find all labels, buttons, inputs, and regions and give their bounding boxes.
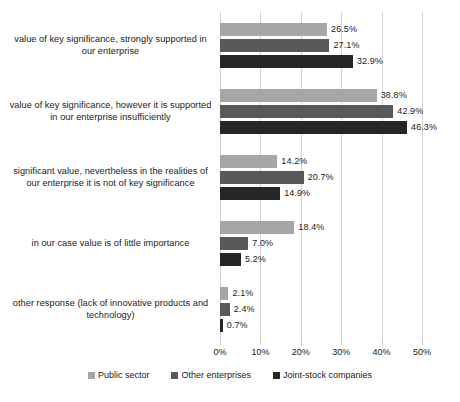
legend-label: Joint-stock companies <box>283 370 372 380</box>
plot-area: 26.5%27.1%32.9%38.8%42.9%46.3%14.2%20.7%… <box>220 12 422 342</box>
bar-joint-stock-companies <box>220 253 241 266</box>
bar-row: 20.7% <box>220 171 334 184</box>
bar-row: 26.5% <box>220 23 357 36</box>
bar-value-label: 42.9% <box>393 105 423 118</box>
bar-value-label: 38.8% <box>377 89 407 102</box>
bar-row: 46.3% <box>220 121 437 134</box>
x-tick-mark <box>341 342 342 345</box>
x-tick-label: 20% <box>292 347 310 357</box>
bar-value-label: 26.5% <box>327 23 357 36</box>
legend-label: Other enterprises <box>181 370 251 380</box>
x-tick-mark <box>220 342 221 345</box>
bar-row: 18.4% <box>220 221 324 234</box>
bar-row: 14.9% <box>220 187 310 200</box>
bar-value-label: 2.1% <box>228 287 253 300</box>
legend-label: Public sector <box>98 370 150 380</box>
bar-row: 5.2% <box>220 253 266 266</box>
x-tick-label: 0% <box>213 347 226 357</box>
gridline-50% <box>422 12 423 342</box>
bar-value-label: 0.7% <box>223 319 248 332</box>
bar-other-enterprises <box>220 171 304 184</box>
legend-swatch-icon <box>88 372 95 379</box>
category-label: value of key significance, however it is… <box>8 99 213 124</box>
bar-row: 2.1% <box>220 287 253 300</box>
bar-row: 7.0% <box>220 237 273 250</box>
x-tick-mark <box>382 342 383 345</box>
legend-item-other-enterprises[interactable]: Other enterprises <box>171 370 251 380</box>
bar-value-label: 7.0% <box>248 237 273 250</box>
bar-public-sector <box>220 287 228 300</box>
bar-value-label: 14.2% <box>277 155 307 168</box>
bar-group: 14.2%20.7%14.9% <box>220 144 422 210</box>
bar-value-label: 32.9% <box>353 55 383 68</box>
bar-joint-stock-companies <box>220 121 407 134</box>
bar-row: 2.4% <box>220 303 255 316</box>
bar-row: 27.1% <box>220 39 360 52</box>
x-tick-mark <box>301 342 302 345</box>
bar-row: 38.8% <box>220 89 407 102</box>
category-label: value of key significance, strongly supp… <box>8 33 213 58</box>
bar-value-label: 27.1% <box>329 39 359 52</box>
bar-value-label: 46.3% <box>407 121 437 134</box>
bar-public-sector <box>220 89 377 102</box>
bar-value-label: 20.7% <box>304 171 334 184</box>
bar-value-label: 18.4% <box>294 221 324 234</box>
bar-public-sector <box>220 155 277 168</box>
bar-row: 14.2% <box>220 155 307 168</box>
x-tick-label: 10% <box>251 347 269 357</box>
bar-chart: 26.5%27.1%32.9%38.8%42.9%46.3%14.2%20.7%… <box>0 0 460 402</box>
category-label: other response (lack of innovative produ… <box>8 297 213 322</box>
bar-other-enterprises <box>220 237 248 250</box>
bar-public-sector <box>220 23 327 36</box>
bar-row: 42.9% <box>220 105 423 118</box>
category-label: in our case value is of little importanc… <box>8 237 213 250</box>
x-tick-label: 30% <box>332 347 350 357</box>
chart-legend: Public sectorOther enterprisesJoint-stoc… <box>0 370 460 380</box>
bar-row: 32.9% <box>220 55 383 68</box>
x-tick-mark <box>260 342 261 345</box>
bar-row: 0.7% <box>220 319 248 332</box>
legend-swatch-icon <box>171 372 178 379</box>
bar-other-enterprises <box>220 105 393 118</box>
legend-swatch-icon <box>273 372 280 379</box>
bar-group: 38.8%42.9%46.3% <box>220 78 422 144</box>
bar-group: 2.1%2.4%0.7% <box>220 276 422 342</box>
bar-value-label: 5.2% <box>241 253 266 266</box>
x-axis: 0%10%20%30%40%50% <box>220 342 422 362</box>
bar-public-sector <box>220 221 294 234</box>
x-tick-mark <box>422 342 423 345</box>
bar-value-label: 2.4% <box>230 303 255 316</box>
bar-group: 18.4%7.0%5.2% <box>220 210 422 276</box>
bar-joint-stock-companies <box>220 187 280 200</box>
x-tick-label: 40% <box>373 347 391 357</box>
bar-other-enterprises <box>220 303 230 316</box>
bar-value-label: 14.9% <box>280 187 310 200</box>
legend-item-public-sector[interactable]: Public sector <box>88 370 150 380</box>
bar-group: 26.5%27.1%32.9% <box>220 12 422 78</box>
legend-item-joint-stock-companies[interactable]: Joint-stock companies <box>273 370 372 380</box>
bar-joint-stock-companies <box>220 55 353 68</box>
x-tick-label: 50% <box>413 347 431 357</box>
category-label: significant value, nevertheless in the r… <box>8 165 213 190</box>
bar-other-enterprises <box>220 39 329 52</box>
